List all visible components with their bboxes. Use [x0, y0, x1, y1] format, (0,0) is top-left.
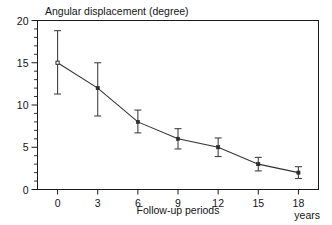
- data-point-marker: [217, 146, 220, 149]
- data-point-markers: [56, 61, 300, 174]
- x-axis-ticks: [58, 190, 299, 195]
- y-tick-label: 10: [17, 99, 29, 111]
- y-axis-ticks: [32, 21, 38, 190]
- y-axis-tick-labels: 05101520: [17, 15, 29, 196]
- data-point-marker: [257, 163, 260, 166]
- x-axis-label: Follow-up periods: [137, 204, 220, 216]
- angular-displacement-line-chart: 05101520 0369121518 Angular displacement…: [0, 0, 332, 225]
- x-tick-label: 18: [293, 197, 305, 209]
- y-tick-label: 15: [17, 57, 29, 69]
- y-tick-label: 0: [23, 184, 29, 196]
- data-point-marker: [96, 87, 99, 90]
- error-bars: [54, 31, 302, 179]
- y-tick-label: 20: [17, 15, 29, 27]
- plot-frame: [38, 21, 319, 190]
- data-point-marker: [297, 171, 300, 174]
- data-series-angular-displacement: [54, 31, 302, 179]
- chart-title: Angular displacement (degree): [45, 5, 189, 17]
- series-line: [58, 63, 299, 173]
- x-tick-label: 0: [55, 197, 61, 209]
- data-point-marker: [56, 61, 59, 64]
- x-tick-label: 15: [252, 197, 264, 209]
- data-point-marker: [136, 120, 139, 123]
- x-tick-label: 3: [95, 197, 101, 209]
- data-point-marker: [176, 137, 179, 140]
- y-tick-label: 5: [23, 141, 29, 153]
- chart-figure: 05101520 0369121518 Angular displacement…: [0, 0, 332, 225]
- x-axis-unit-label: years: [294, 209, 320, 221]
